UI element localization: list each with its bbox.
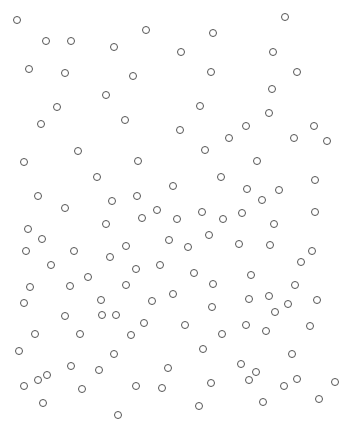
circle-marker [190, 269, 198, 277]
circle-marker [218, 330, 226, 338]
circle-marker [176, 126, 184, 134]
circle-marker [290, 134, 298, 142]
circle-marker [15, 347, 23, 355]
circle-marker [269, 48, 277, 56]
circle-marker [310, 122, 318, 130]
circle-marker [265, 109, 273, 117]
circle-marker [165, 236, 173, 244]
circle-marker [217, 173, 225, 181]
circle-marker [37, 120, 45, 128]
circle-marker [133, 192, 141, 200]
circle-marker [47, 261, 55, 269]
circle-marker [42, 37, 50, 45]
circle-marker [196, 102, 204, 110]
circle-marker [132, 382, 140, 390]
circle-marker [122, 242, 130, 250]
circle-marker [138, 214, 146, 222]
circle-marker [270, 220, 278, 228]
circle-marker [207, 68, 215, 76]
circle-marker [24, 225, 32, 233]
circle-marker [22, 247, 30, 255]
circle-marker [195, 402, 203, 410]
circle-marker [315, 395, 323, 403]
circle-marker [173, 215, 181, 223]
circle-marker [291, 281, 299, 289]
circle-marker [110, 43, 118, 51]
circle-marker [53, 103, 61, 111]
circle-marker [311, 176, 319, 184]
circle-marker [93, 173, 101, 181]
circle-marker [95, 366, 103, 374]
circle-marker [153, 206, 161, 214]
circle-marker [288, 350, 296, 358]
circle-marker [238, 209, 246, 217]
circle-marker [148, 297, 156, 305]
circle-marker [268, 85, 276, 93]
circle-marker [245, 295, 253, 303]
circle-marker [70, 247, 78, 255]
circle-marker [247, 271, 255, 279]
circle-marker [266, 241, 274, 249]
circle-marker [201, 146, 209, 154]
circle-marker [134, 157, 142, 165]
circle-marker [158, 384, 166, 392]
circle-marker [25, 65, 33, 73]
circle-marker [265, 292, 273, 300]
circle-marker [98, 311, 106, 319]
circle-marker [114, 411, 122, 419]
circle-marker [242, 122, 250, 130]
circle-marker [39, 399, 47, 407]
circle-marker [169, 182, 177, 190]
circle-marker [43, 371, 51, 379]
circle-marker [84, 273, 92, 281]
circle-marker [293, 68, 301, 76]
circle-marker [132, 265, 140, 273]
circle-marker [112, 311, 120, 319]
circle-marker [164, 364, 172, 372]
circle-marker [198, 208, 206, 216]
circle-marker [102, 91, 110, 99]
circle-marker [121, 116, 129, 124]
circle-marker [67, 37, 75, 45]
circle-marker [253, 157, 261, 165]
circle-marker [177, 48, 185, 56]
circle-marker [106, 253, 114, 261]
circle-marker [20, 158, 28, 166]
circle-marker [20, 299, 28, 307]
circle-marker [242, 321, 250, 329]
circle-marker [209, 29, 217, 37]
circle-marker [237, 360, 245, 368]
circle-marker [262, 327, 270, 335]
circle-marker [122, 281, 130, 289]
circle-marker [26, 283, 34, 291]
circle-marker [311, 208, 319, 216]
circle-marker [78, 385, 86, 393]
circle-marker [13, 16, 21, 24]
circle-marker [271, 308, 279, 316]
circle-marker [102, 220, 110, 228]
circle-marker [205, 231, 213, 239]
circle-marker [293, 375, 301, 383]
circle-marker [258, 196, 266, 204]
circle-marker [140, 319, 148, 327]
circle-marker [38, 235, 46, 243]
circle-marker [331, 378, 339, 386]
circle-marker [208, 303, 216, 311]
circle-marker [281, 13, 289, 21]
circle-marker [184, 243, 192, 251]
circle-marker [209, 280, 217, 288]
circle-marker [308, 247, 316, 255]
circle-marker [280, 382, 288, 390]
circle-marker [243, 185, 251, 193]
circle-marker [61, 69, 69, 77]
circle-marker [199, 345, 207, 353]
circle-marker [156, 261, 164, 269]
circle-marker [76, 330, 84, 338]
circle-marker [20, 382, 28, 390]
circle-marker [110, 350, 118, 358]
circle-marker [313, 296, 321, 304]
circle-marker [181, 321, 189, 329]
circle-marker [74, 147, 82, 155]
circle-marker [284, 300, 292, 308]
circle-marker [252, 368, 260, 376]
